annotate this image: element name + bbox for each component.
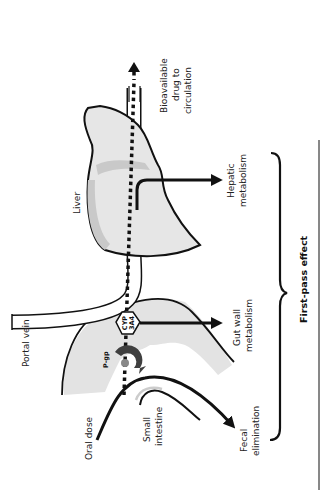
first-pass-effect-title: First-pass effect (298, 235, 309, 323)
small-intestine-label-1: Small (142, 417, 152, 442)
liver-label: Liver (72, 192, 82, 214)
first-pass-brace (270, 153, 287, 440)
oral-dose-label: Oral dose (84, 416, 94, 460)
arrowhead-up-icon (128, 62, 140, 72)
gut-wall-label-1: Gut wall (232, 309, 242, 346)
fecal-label-1: Fecal (239, 429, 249, 452)
pgp-label: P-gp (102, 351, 110, 368)
hepatic-label-1: Hepatic (226, 163, 236, 198)
hepatic-label-2: metabolism (238, 154, 248, 207)
small-intestine-label-2: intestine (154, 406, 164, 446)
fecal-label-2: elimination (251, 406, 261, 456)
bioavailable-label-2: drug to (171, 68, 181, 101)
bioavailable-label-1: Bioavailable (159, 58, 169, 113)
portal-vein-label: Portal vein (21, 319, 31, 367)
gut-wall-label-2: metabolism (244, 299, 254, 352)
first-pass-effect-diagram: CYP 3A4 P-gp Oral dose Small intestine P… (0, 0, 323, 490)
cyp-label-2: 3A4 (128, 315, 136, 330)
bioavailable-label-3: circulation (183, 67, 193, 114)
